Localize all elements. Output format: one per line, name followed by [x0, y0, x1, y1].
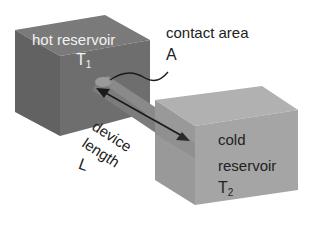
contact-area-label: contact area: [166, 25, 249, 41]
hot-reservoir-label: hot reservoir: [32, 32, 115, 48]
hot-temp-subscript: 1: [86, 59, 92, 70]
cold-temp-label: T2: [218, 180, 233, 201]
cold-reservoir-label-line2: reservoir: [218, 158, 276, 174]
hot-temp-label: T1: [76, 52, 91, 73]
cold-reservoir-label-line1: cold: [218, 132, 246, 148]
cold-temp-symbol: T: [218, 179, 228, 196]
contact-area-symbol: A: [166, 47, 177, 63]
contact-area-end: [95, 77, 111, 87]
cold-temp-subscript: 2: [228, 187, 234, 198]
hot-temp-symbol: T: [76, 51, 86, 68]
